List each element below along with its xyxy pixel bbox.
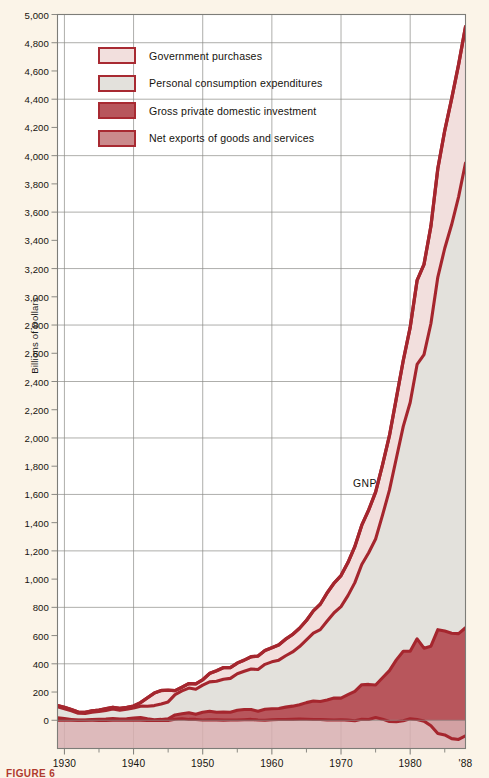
chart-legend: Government purchasesPersonal consumption…: [98, 44, 398, 154]
legend-item[interactable]: Net exports of goods and services: [98, 127, 398, 150]
legend-swatch: [98, 130, 136, 147]
legend-label: Personal consumption expenditures: [149, 77, 322, 89]
x-tick-label: 1930: [53, 758, 76, 769]
x-tick-label: 1980: [398, 758, 421, 769]
gnp-annotation-label: GNP: [353, 478, 377, 489]
legend-swatch: [98, 47, 136, 64]
legend-item[interactable]: Government purchases: [98, 44, 398, 67]
legend-swatch: [98, 75, 136, 92]
x-tick-label: 1960: [260, 758, 283, 769]
legend-swatch: [98, 102, 136, 119]
figure-root: Billions of Dollars 02004006008001,0001,…: [0, 0, 489, 778]
x-tick-label: 1950: [191, 758, 214, 769]
legend-label: Government purchases: [149, 50, 262, 62]
legend-item[interactable]: Gross private domestic investment: [98, 99, 398, 122]
legend-item[interactable]: Personal consumption expenditures: [98, 72, 398, 95]
x-tick-label: 1970: [329, 758, 352, 769]
legend-label: Net exports of goods and services: [149, 132, 314, 144]
x-tick-label: 1940: [122, 758, 145, 769]
figure-caption: FIGURE 6: [6, 768, 55, 778]
x-tick-label: '88: [459, 758, 473, 769]
legend-label: Gross private domestic investment: [149, 105, 316, 117]
